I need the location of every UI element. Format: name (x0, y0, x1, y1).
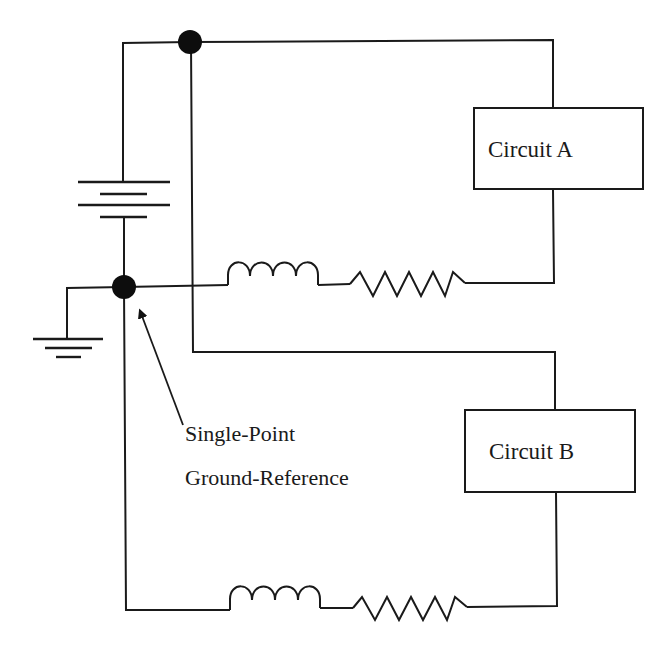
circuit-a-block: Circuit A (474, 108, 643, 189)
circuit-b-label: Circuit B (489, 439, 574, 464)
annotation-line-2: Ground-Reference (185, 465, 349, 490)
resistor-a-icon (350, 272, 465, 296)
circuit-diagram: Circuit A Circuit B Single-Point Ground-… (0, 0, 670, 646)
ground-icon (33, 287, 124, 357)
circuit-b-block: Circuit B (465, 410, 635, 492)
resistor-b-icon (353, 597, 467, 620)
annotation-arrow (142, 316, 183, 425)
circuit-b-supply-wire (191, 42, 555, 410)
inductor-a-icon (228, 262, 318, 285)
ground-junction-dot (112, 275, 136, 299)
circuit-a-return-path (124, 190, 554, 296)
top-junction-dot (178, 30, 202, 54)
inductor-b-icon (230, 586, 320, 610)
battery-icon (78, 182, 170, 287)
annotation-line-1: Single-Point (185, 421, 295, 446)
circuit-a-label: Circuit A (488, 137, 573, 162)
